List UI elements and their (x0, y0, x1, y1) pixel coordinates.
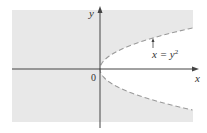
curve-label: x = y2 (151, 48, 179, 60)
curve-label-exponent: 2 (175, 48, 179, 56)
curve-label-text: x = y (151, 48, 175, 60)
x-axis-label: x (194, 72, 200, 84)
y-axis-label: y (88, 7, 94, 19)
x-axis-arrow-icon (192, 67, 199, 72)
y-axis-arrow-icon (98, 6, 103, 13)
origin-label: 0 (91, 72, 96, 83)
figure: x y 0 x = y2 (0, 0, 207, 133)
